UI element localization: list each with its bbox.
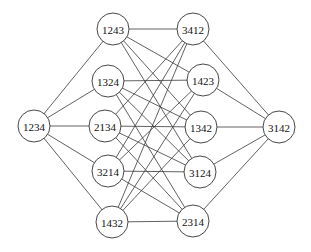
nodes-layer: 1234124313242134321414323412142313423124… xyxy=(18,13,295,238)
node-label: 2314 xyxy=(182,216,205,228)
edge-1432-3412 xyxy=(112,29,193,222)
node-1234: 1234 xyxy=(18,110,50,142)
node-1324: 1324 xyxy=(92,65,124,97)
node-label: 3214 xyxy=(97,166,120,178)
node-label: 3142 xyxy=(268,122,290,134)
edges-layer xyxy=(34,29,279,222)
node-1342: 1342 xyxy=(185,111,217,143)
node-label: 2134 xyxy=(94,121,117,133)
node-1423: 1423 xyxy=(187,64,219,96)
node-1243: 1243 xyxy=(97,13,129,45)
node-label: 1324 xyxy=(97,76,120,88)
node-3142: 3142 xyxy=(263,111,295,143)
node-label: 1234 xyxy=(23,121,46,133)
node-label: 3124 xyxy=(189,167,212,179)
node-3412: 3412 xyxy=(177,13,209,45)
node-1432: 1432 xyxy=(96,206,128,238)
node-3124: 3124 xyxy=(184,156,216,188)
node-label: 1432 xyxy=(101,217,123,229)
edge-1432-1423 xyxy=(112,80,203,222)
permutation-graph: 1234124313242134321414323412142313423124… xyxy=(0,0,311,252)
node-label: 1342 xyxy=(190,122,212,134)
node-label: 3412 xyxy=(182,24,204,36)
node-label: 1243 xyxy=(102,24,125,36)
node-2134: 2134 xyxy=(89,110,121,142)
node-label: 1423 xyxy=(192,75,215,87)
node-2314: 2314 xyxy=(177,205,209,237)
node-3214: 3214 xyxy=(92,155,124,187)
